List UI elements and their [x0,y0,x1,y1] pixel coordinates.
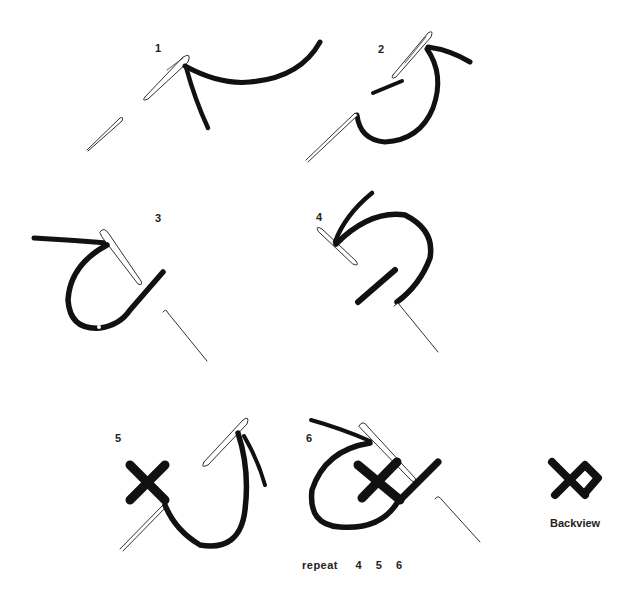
repeat-word: repeat [302,559,338,571]
step-label-1: 1 [155,42,161,54]
needle-icon [394,303,438,352]
repeat-step-6: 6 [396,559,403,571]
needle-icon [144,55,190,100]
thread-icon [185,42,320,82]
repeat-step-5: 5 [376,559,383,571]
repeat-instruction: repeat 4 5 6 [302,559,403,571]
backview-label: Backview [550,517,600,529]
step-3-figure [34,229,207,361]
needle-tip-icon [87,117,123,151]
step-label-3: 3 [155,212,161,224]
step-2-figure [306,32,470,162]
step-5-figure [120,418,265,551]
stitch-icon [373,81,402,93]
stitch-icon [358,270,395,302]
step-label-4: 4 [316,211,322,223]
step-label-2: 2 [378,43,384,55]
needle-icon [100,229,142,284]
needle-icon [163,310,207,361]
thread-icon [357,49,438,142]
thread-icon [335,193,372,242]
repeat-step-4: 4 [356,559,363,571]
thread-icon [34,238,107,243]
needle-icon [306,113,358,162]
step-6-figure [311,420,480,542]
stitch-diagram [0,0,642,589]
needle-icon [120,505,166,551]
step-1-figure [87,42,320,151]
step-label-6: 6 [306,432,312,444]
thread-icon [68,245,163,328]
backview-figure [552,462,598,495]
thread-icon [165,433,246,546]
step-4-figure [317,193,438,352]
needle-icon [435,497,480,542]
step-label-5: 5 [115,432,121,444]
